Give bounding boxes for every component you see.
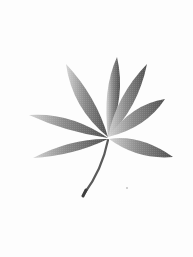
photo-frame [0,0,193,257]
speck [126,187,128,189]
leaf-stem [84,140,108,194]
leaf-illustration [0,0,193,257]
